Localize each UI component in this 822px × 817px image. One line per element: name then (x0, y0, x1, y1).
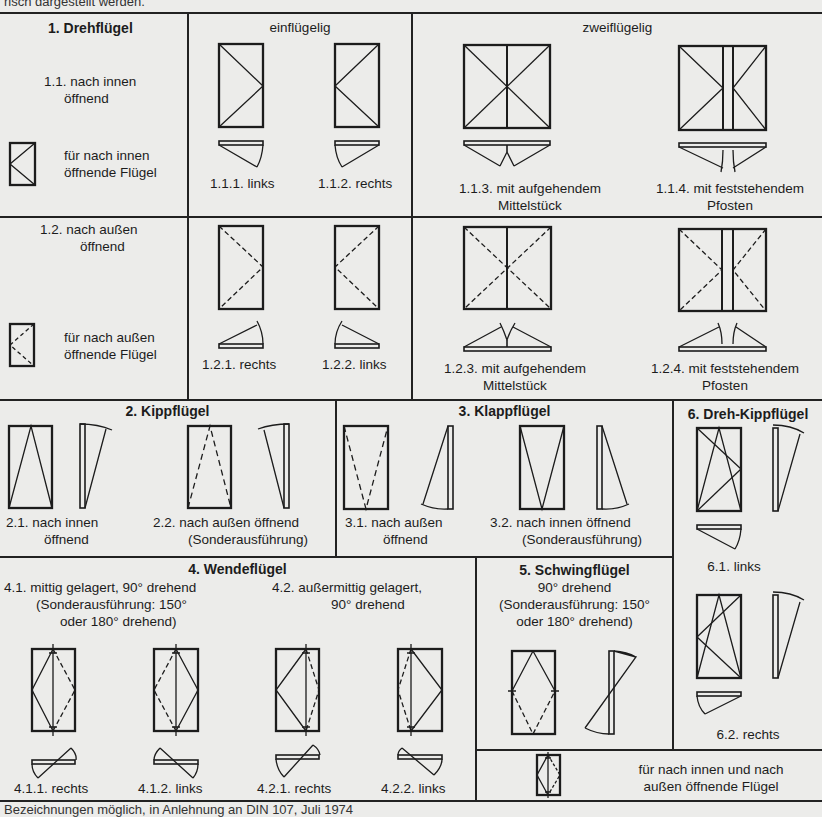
window-4-1-2-icon (154, 644, 198, 778)
window-1-1-3-icon (464, 45, 550, 166)
window-1-2-1-icon (219, 226, 263, 348)
window-1-1-2-icon (335, 44, 379, 167)
window-1-2-3-icon (464, 227, 551, 351)
window-2-2-icon (188, 424, 289, 508)
window-3-2-icon (520, 426, 629, 509)
window-3-1-icon (344, 426, 453, 509)
window-4-2-1-icon (276, 644, 320, 777)
window-2-1-icon (9, 424, 112, 508)
window-1-1-4-icon (679, 46, 766, 172)
legend-both-icon (537, 752, 560, 798)
legend-outward-icon (10, 324, 34, 366)
window-4-2-2-icon (398, 644, 442, 775)
window-1-2-4-icon (679, 229, 766, 351)
window-1-1-1-icon (219, 44, 263, 167)
window-4-1-1-icon (32, 644, 76, 778)
legend-inward-icon (10, 143, 35, 185)
window-1-2-2-icon (335, 226, 379, 348)
window-5-icon (508, 651, 636, 734)
window-6-1-icon (697, 425, 804, 549)
window-6-2-icon (697, 592, 804, 714)
